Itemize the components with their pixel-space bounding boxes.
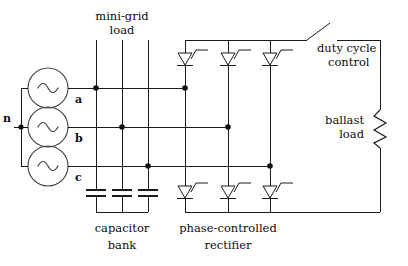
ballast-load-label-line1: ballast: [325, 113, 364, 127]
junction-phase-c-bridge: [267, 163, 273, 169]
phase-bus-group: [68, 88, 270, 166]
duty-cycle-control-label-line2: control: [328, 55, 370, 69]
ac-source-group: [14, 68, 68, 186]
junction-phase-b-feeder: [119, 124, 125, 130]
junction-neutral: [18, 124, 23, 129]
circuit-diagram: mini-grid load duty cycle control ballas…: [0, 0, 408, 266]
thyristor-b-upper: [220, 50, 251, 66]
mini-grid-load-label-line2: load: [110, 23, 135, 37]
capacitor-bank-group: [86, 190, 158, 212]
phase-c-label: c: [75, 171, 82, 184]
source-phase-b-icon: [28, 107, 68, 147]
junction-phase-a-bridge: [182, 85, 188, 91]
capacitor-bank-label-line2: bank: [108, 238, 138, 252]
capacitor-3: [138, 190, 158, 212]
phase-b-label: b: [75, 132, 83, 145]
circuit-canvas: mini-grid load duty cycle control ballas…: [0, 0, 408, 266]
neutral-label: n: [3, 112, 11, 125]
ballast-load-resistor: [374, 110, 386, 148]
thyristor-a-lower: [177, 183, 208, 199]
junction-phase-a-feeder: [93, 85, 99, 91]
thyristor-c-upper: [262, 50, 293, 66]
capacitor-2: [112, 190, 132, 212]
junction-phase-b-bridge: [225, 124, 231, 130]
thyristor-b-lower: [220, 183, 251, 199]
source-phase-a-icon: [28, 68, 68, 108]
source-phase-c-icon: [28, 146, 68, 186]
junction-phase-c-feeder: [145, 163, 151, 169]
capacitor-bank-label-line1: capacitor: [95, 221, 150, 235]
mini-grid-load-branches: [96, 40, 148, 190]
phase-a-label: a: [75, 93, 82, 106]
thyristor-a-upper: [177, 50, 208, 66]
duty-cycle-switch-blade: [307, 23, 330, 40]
duty-cycle-control-label-line1: duty cycle: [317, 41, 377, 55]
ballast-load-label-line2: load: [339, 127, 364, 141]
rectifier-label-line2: rectifier: [204, 238, 252, 252]
thyristor-c-lower: [262, 183, 293, 199]
rectifier-label-line1: phase-controlled: [179, 221, 277, 235]
capacitor-1: [86, 190, 106, 212]
mini-grid-load-label-line1: mini-grid: [95, 9, 149, 23]
